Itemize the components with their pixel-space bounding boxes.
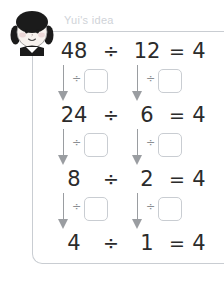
divisor: 2 (128, 166, 166, 192)
connector-left: ÷ (50, 192, 128, 230)
divide-by-symbol: ÷ (146, 73, 155, 84)
division-operator: ÷ (100, 166, 122, 192)
answer-box[interactable] (84, 69, 108, 93)
answer-box[interactable] (84, 133, 108, 157)
down-arrow-icon (132, 129, 143, 165)
division-operator: ÷ (100, 102, 122, 128)
equation-row: 24 ÷ 6 = 4 (32, 102, 224, 128)
connector-left: ÷ (50, 128, 128, 166)
equation-row: 48 ÷ 12 = 4 (32, 38, 224, 64)
divide-by-symbol: ÷ (146, 201, 155, 212)
equation-row: 4 ÷ 1 = 4 (32, 230, 224, 256)
result: 4 (188, 166, 210, 192)
connector-right: ÷ (124, 64, 202, 102)
connector-band: ÷ ÷ (32, 64, 224, 102)
divisor: 12 (128, 38, 166, 64)
divide-by-symbol: ÷ (72, 73, 81, 84)
equals-sign: = (168, 230, 186, 256)
divide-by-symbol: ÷ (146, 137, 155, 148)
avatar (6, 4, 58, 56)
divide-by-symbol: ÷ (72, 201, 81, 212)
result: 4 (188, 38, 210, 64)
divisor: 1 (128, 230, 166, 256)
result: 4 (188, 102, 210, 128)
connector-right: ÷ (124, 192, 202, 230)
page-title: Yui's idea (64, 14, 114, 26)
equation-row: 8 ÷ 2 = 4 (32, 166, 224, 192)
equals-sign: = (168, 102, 186, 128)
down-arrow-icon (58, 65, 69, 101)
division-operator: ÷ (100, 38, 122, 64)
answer-box[interactable] (84, 197, 108, 221)
answer-box[interactable] (158, 69, 182, 93)
equals-sign: = (168, 166, 186, 192)
connector-band: ÷ ÷ (32, 128, 224, 166)
equation-list: 48 ÷ 12 = 4 ÷ ÷ 24 ÷ 6 = 4 ÷ (32, 38, 224, 256)
down-arrow-icon (58, 193, 69, 229)
equals-sign: = (168, 38, 186, 64)
dividend: 24 (54, 102, 94, 128)
division-operator: ÷ (100, 230, 122, 256)
down-arrow-icon (132, 193, 143, 229)
down-arrow-icon (132, 65, 143, 101)
connector-right: ÷ (124, 128, 202, 166)
divide-by-symbol: ÷ (72, 137, 81, 148)
dividend: 4 (54, 230, 94, 256)
down-arrow-icon (58, 129, 69, 165)
divisor: 6 (128, 102, 166, 128)
dividend: 48 (54, 38, 94, 64)
dividend: 8 (54, 166, 94, 192)
answer-box[interactable] (158, 133, 182, 157)
answer-box[interactable] (158, 197, 182, 221)
connector-band: ÷ ÷ (32, 192, 224, 230)
connector-left: ÷ (50, 64, 128, 102)
result: 4 (188, 230, 210, 256)
